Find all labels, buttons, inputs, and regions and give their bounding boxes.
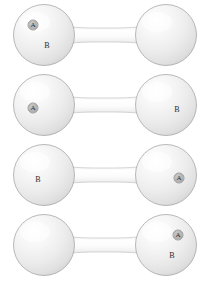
dumbbell-row-3: BA [0,142,209,208]
dumbbell-graphic [0,142,209,208]
sphere-left [14,5,75,66]
dumbbell-graphic [0,2,209,68]
sphere-left [14,145,75,206]
sphere-right [136,215,197,276]
sphere-right-highlight [142,82,172,102]
sphere-left-highlight [20,152,50,172]
sphere-right-highlight [142,12,172,32]
sphere-right-highlight [142,222,172,242]
sphere-left [14,75,75,136]
dumbbell-row-2: AB [0,72,209,138]
dumbbell-row-1: AB [0,2,209,68]
sphere-right [136,75,197,136]
dumbbell-figure-stack: AB [0,0,209,284]
dumbbell-graphic [0,72,209,138]
dumbbell-graphic [0,212,209,278]
sphere-right-highlight [142,152,172,172]
sphere-left-highlight [20,222,50,242]
sphere-left-highlight [20,82,50,102]
sphere-left-highlight [20,12,50,32]
sphere-right [136,5,197,66]
sphere-left [14,215,75,276]
sphere-right [136,145,197,206]
dumbbell-row-4: AB [0,212,209,278]
